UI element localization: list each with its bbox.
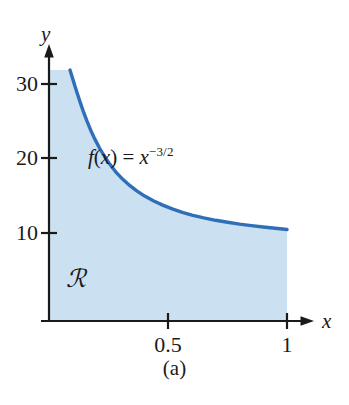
y-axis-label: y [41,24,50,45]
y-axis-arrowhead [44,44,54,58]
function-equation-label: f(x) = x−3/2 [88,145,174,168]
y-tick-label-30: 30 [0,73,38,95]
function-argument: x [101,145,110,169]
function-exponent: −3/2 [149,144,174,159]
y-tick-label-20: 20 [0,147,38,169]
x-tick-label-1: 1 [262,334,312,356]
function-paren-open: ( [94,145,101,169]
x-tick-label-0-5: 0.5 [138,334,198,356]
x-axis-arrowhead [301,316,315,326]
region-label-R: ℛ [66,266,86,291]
equals-glyph: = [122,145,134,169]
figure-caption: (a) [0,358,349,379]
figure-container: y x 30 20 10 0.5 1 f(x) = x−3/2 ℛ (a) [0,0,349,405]
function-base: x [140,145,149,169]
x-axis-label: x [322,311,331,332]
y-tick-label-10: 10 [0,222,38,244]
